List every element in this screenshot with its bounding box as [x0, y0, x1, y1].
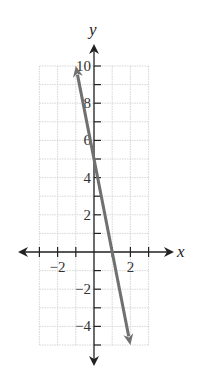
x-tick-label: 2	[127, 259, 135, 275]
x-tick-label: −2	[50, 259, 66, 275]
y-tick-label: −4	[75, 318, 91, 334]
x-axis-label: x	[176, 242, 185, 261]
y-axis-label: y	[87, 20, 97, 39]
coordinate-plane: −22108642−2−4 x y	[0, 0, 197, 376]
axes	[18, 44, 174, 366]
y-tick-label: −2	[75, 281, 91, 297]
series	[73, 66, 133, 345]
y-tick-label: 2	[84, 207, 92, 223]
y-tick-label: 4	[84, 170, 92, 186]
